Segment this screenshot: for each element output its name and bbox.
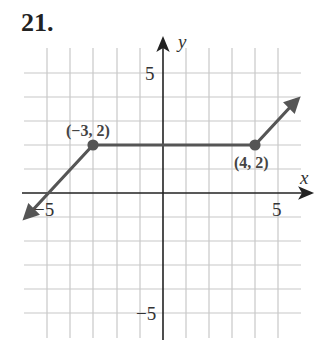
x-axis-label: x [299,167,309,188]
point-label-neg3-2: (−3, 2) [66,122,110,140]
x-tick-neg5: −5 [34,199,54,220]
y-axis-label: y [176,31,187,52]
point-4-2 [251,141,259,149]
graph: y x 5 −5 −5 5 (−3, 2) (4, 2) [0,0,324,342]
axes [22,38,312,340]
x-tick-5: 5 [272,199,282,220]
y-tick-5: 5 [145,63,155,84]
point-label-4-2: (4, 2) [234,154,269,172]
point-neg3-2 [89,141,97,149]
y-tick-neg5: −5 [136,303,156,324]
